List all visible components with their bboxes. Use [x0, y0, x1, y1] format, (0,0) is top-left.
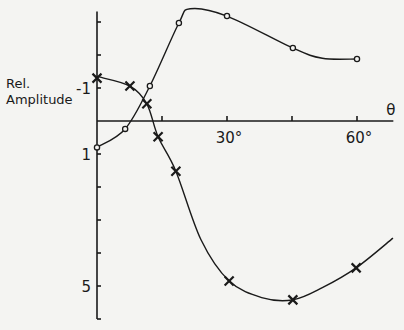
data-point-x	[142, 99, 151, 108]
markers	[93, 13, 361, 304]
x-tick-label: 30°	[216, 129, 243, 147]
data-point-circle	[290, 45, 295, 50]
y-tick-label: 5	[81, 278, 91, 296]
data-point-x	[225, 277, 234, 286]
data-point-circle	[224, 13, 229, 18]
data-point-circle	[176, 20, 181, 25]
y-tick-label: -1	[76, 80, 91, 98]
curves	[97, 8, 393, 300]
data-point-circle	[147, 83, 152, 88]
axes: -11530°60°	[76, 12, 393, 320]
series-curve-circles	[97, 8, 357, 147]
series-curve-crosses	[97, 76, 393, 300]
data-point-x	[154, 132, 163, 141]
x-tick-label: 60°	[346, 129, 373, 147]
x-axis-label: θ	[386, 101, 395, 119]
data-point-circle	[94, 145, 99, 150]
data-point-x	[171, 167, 180, 176]
data-point-circle	[354, 56, 359, 61]
data-point-x	[125, 82, 134, 91]
y-tick-label: 1	[81, 146, 91, 164]
chart: -11530°60° θ	[0, 0, 404, 330]
data-point-x	[352, 263, 361, 272]
data-point-circle	[123, 126, 128, 131]
